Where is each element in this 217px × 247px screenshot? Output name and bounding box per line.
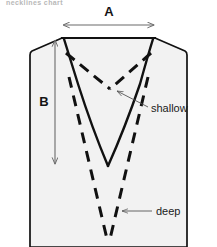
deep-label: deep: [156, 205, 180, 217]
dimension-b-label: B: [39, 94, 48, 109]
clipped-heading-text: necklines chart: [6, 0, 63, 6]
dimension-a-label: A: [104, 4, 114, 19]
diagram-canvas: necklines chart A B: [0, 0, 217, 247]
dimension-a: A: [64, 4, 154, 25]
vneck-depth-diagram: necklines chart A B: [0, 0, 217, 247]
shallow-label: shallow: [151, 102, 188, 114]
